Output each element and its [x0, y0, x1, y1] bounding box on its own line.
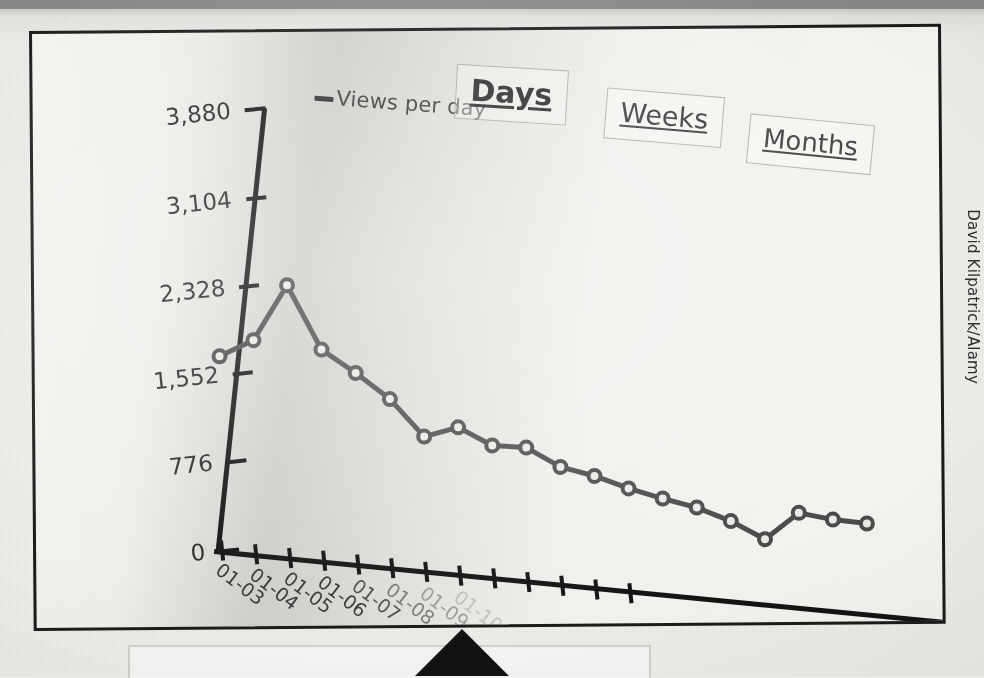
svg-text:2,328: 2,328 — [158, 275, 226, 308]
svg-text:0: 0 — [189, 539, 206, 566]
data-point[interactable] — [793, 507, 805, 519]
data-point[interactable] — [657, 492, 669, 504]
triangle-pointer-icon — [415, 629, 509, 676]
data-point[interactable] — [214, 350, 226, 362]
tab-days-label: Days — [470, 73, 554, 113]
tab-weeks-label: Weeks — [619, 97, 709, 135]
data-point[interactable] — [384, 393, 396, 405]
photo-credit: David Kilpatrick/Alamy — [964, 209, 982, 384]
data-point[interactable] — [281, 279, 293, 291]
data-point[interactable] — [588, 470, 600, 482]
svg-text:776: 776 — [168, 450, 214, 480]
data-point[interactable] — [315, 344, 327, 356]
analytics-chart-panel: 3,880 3,104 2,328 1,552 776 0 — [29, 24, 946, 631]
data-point[interactable] — [623, 482, 635, 494]
data-point[interactable] — [247, 334, 259, 346]
tab-weeks[interactable]: Weeks — [603, 87, 725, 148]
data-point[interactable] — [691, 502, 703, 514]
data-point[interactable] — [418, 431, 430, 443]
views-per-day-markers — [213, 275, 873, 550]
data-point[interactable] — [554, 461, 566, 473]
data-point[interactable] — [861, 517, 873, 529]
tab-months-label: Months — [762, 123, 860, 162]
data-point[interactable] — [350, 367, 362, 379]
svg-text:1,552: 1,552 — [152, 362, 220, 395]
line-swatch-icon — [314, 96, 333, 102]
data-point[interactable] — [827, 514, 839, 526]
data-point[interactable] — [759, 533, 771, 545]
data-point[interactable] — [520, 442, 532, 454]
page-edge-card — [128, 645, 651, 678]
svg-text:3,880: 3,880 — [164, 98, 232, 131]
data-point[interactable] — [452, 421, 464, 433]
views-per-day-line — [219, 281, 867, 544]
tab-days[interactable]: Days — [454, 64, 569, 126]
data-point[interactable] — [725, 515, 737, 527]
data-point[interactable] — [486, 439, 498, 451]
svg-text:3,104: 3,104 — [165, 187, 233, 220]
